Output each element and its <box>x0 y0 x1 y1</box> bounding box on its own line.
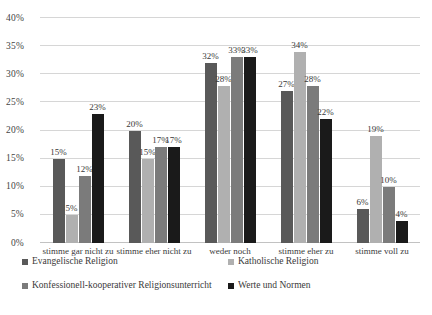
y-axis-tick-label: 20% <box>0 126 24 136</box>
bar <box>281 91 293 243</box>
bar-value-label: 5% <box>66 204 78 213</box>
bar-value-label: 32% <box>202 52 219 61</box>
bar-chart: 0%5%10%15%20%25%30%35%40% 15%5%12%23%sti… <box>0 0 432 315</box>
legend-swatch-icon <box>22 259 28 265</box>
bar <box>244 57 256 243</box>
bar-column: 15% <box>53 18 65 243</box>
y-axis-tick-label: 40% <box>0 14 24 24</box>
chart-legend: Evangelische Religion Katholische Religi… <box>22 256 422 306</box>
bar-column: 20% <box>129 18 141 243</box>
legend-label: Werte und Normen <box>238 280 311 291</box>
bar-value-label: 17% <box>165 136 182 145</box>
bar <box>370 136 382 243</box>
x-axis-category-label: stimme voll zu <box>355 246 409 256</box>
y-axis-tick-label: 5% <box>0 210 24 220</box>
bar-column: 12% <box>79 18 91 243</box>
y-axis-tick-label: 0% <box>0 239 24 249</box>
bar-group: 6%19%10%4%stimme voll zu <box>357 18 408 243</box>
bar-group: 27%34%28%22%stimme eher zu <box>281 18 332 243</box>
bar <box>320 119 332 243</box>
bar <box>383 187 395 243</box>
bar <box>92 114 104 243</box>
legend-item-konfessionell-kooperativer-religionsunterricht: Konfessionell-kooperativer Religionsunte… <box>22 280 212 291</box>
bar-value-label: 12% <box>76 165 93 174</box>
bar <box>357 209 369 243</box>
bar-value-label: 22% <box>317 108 334 117</box>
bar-column: 4% <box>396 18 408 243</box>
legend-swatch-icon <box>228 259 234 265</box>
bar-value-label: 34% <box>291 41 308 50</box>
bar-value-label: 10% <box>380 176 397 185</box>
bar <box>155 147 167 243</box>
bar <box>218 86 230 244</box>
bar-group: 15%5%12%23%stimme gar nicht zu <box>53 18 104 243</box>
bar-column: 17% <box>168 18 180 243</box>
y-axis-tick-label: 15% <box>0 154 24 164</box>
legend-swatch-icon <box>228 283 234 289</box>
bar-value-label: 33% <box>241 46 258 55</box>
bar-column: 33% <box>244 18 256 243</box>
bar <box>168 147 180 243</box>
bar <box>231 57 243 243</box>
x-axis-category-label: stimme gar nicht zu <box>42 246 113 256</box>
bar-value-label: 6% <box>357 198 369 207</box>
bar-value-label: 4% <box>396 210 408 219</box>
bar-column: 15% <box>142 18 154 243</box>
bar <box>205 63 217 243</box>
bar-column: 19% <box>370 18 382 243</box>
legend-label: Evangelische Religion <box>32 256 118 267</box>
legend-item-evangelische-religion: Evangelische Religion <box>22 256 118 267</box>
bar-column: 34% <box>294 18 306 243</box>
bar-column: 27% <box>281 18 293 243</box>
bar-value-label: 20% <box>126 120 143 129</box>
bar-value-label: 23% <box>89 103 106 112</box>
bar-value-label: 15% <box>139 148 156 157</box>
bar-column: 10% <box>383 18 395 243</box>
bar-group: 32%28%33%33%weder noch <box>205 18 256 243</box>
x-axis-category-label: stimme eher nicht zu <box>116 246 191 256</box>
y-axis-tick-label: 35% <box>0 42 24 52</box>
bar <box>66 215 78 243</box>
y-axis-tick-label: 30% <box>0 70 24 80</box>
legend-item-werte-und-normen: Werte und Normen <box>228 280 311 291</box>
y-axis-tick-label: 10% <box>0 182 24 192</box>
bar-value-label: 15% <box>50 148 67 157</box>
legend-item-katholische-religion: Katholische Religion <box>228 256 318 267</box>
bar <box>79 176 91 244</box>
bar <box>142 159 154 243</box>
bar-column: 23% <box>92 18 104 243</box>
plot-area: 0%5%10%15%20%25%30%35%40% 15%5%12%23%sti… <box>40 18 420 243</box>
bar-value-label: 19% <box>367 125 384 134</box>
x-axis-category-label: weder noch <box>209 246 251 256</box>
bar-value-label: 27% <box>278 80 295 89</box>
bar-column: 22% <box>320 18 332 243</box>
bar-column: 17% <box>155 18 167 243</box>
bar-column: 28% <box>307 18 319 243</box>
y-axis-tick-label: 25% <box>0 98 24 108</box>
legend-swatch-icon <box>22 283 28 289</box>
bar-column: 32% <box>205 18 217 243</box>
bar-value-label: 28% <box>215 75 232 84</box>
bar-value-label: 28% <box>304 75 321 84</box>
legend-label: Katholische Religion <box>238 256 318 267</box>
legend-label: Konfessionell-kooperativer Religionsunte… <box>32 280 212 291</box>
bar <box>396 221 408 244</box>
bar <box>53 159 65 243</box>
bar-group: 20%15%17%17%stimme eher nicht zu <box>129 18 180 243</box>
x-axis-category-label: stimme eher zu <box>279 246 334 256</box>
bar-column: 5% <box>66 18 78 243</box>
